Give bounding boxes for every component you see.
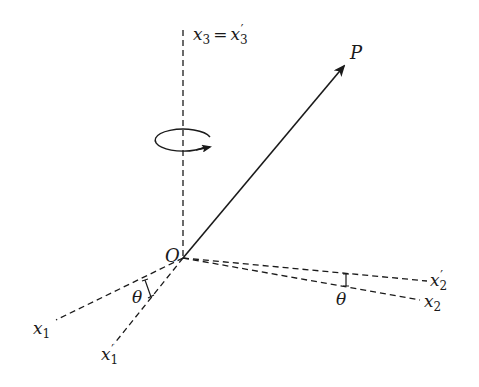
x1-axis <box>56 258 183 320</box>
diagram-graphics <box>0 0 479 387</box>
x1-prime-axis <box>114 258 183 344</box>
angle-theta-2: θ <box>336 291 346 308</box>
x2-axis-label: x2 <box>424 293 441 313</box>
x3-axis-label: x3=x3′ <box>193 26 250 46</box>
x1-axis-label: x1 <box>33 320 50 340</box>
vector-op <box>183 66 344 258</box>
angle-marker-2 <box>343 274 349 286</box>
rotation-diagram: x3=x3′ P O θ θ x1 x1′ x2′ x2 <box>0 0 479 387</box>
origin-label: O <box>165 247 180 265</box>
angle-marker-1 <box>142 279 154 298</box>
x2-prime-axis <box>183 258 427 281</box>
x1-prime-axis-label: x1′ <box>101 346 121 366</box>
vector-p-label: P <box>350 44 362 62</box>
angle-theta-1: θ <box>132 289 142 306</box>
x2-prime-axis-label: x2′ <box>430 272 450 292</box>
x2-axis <box>183 258 420 300</box>
